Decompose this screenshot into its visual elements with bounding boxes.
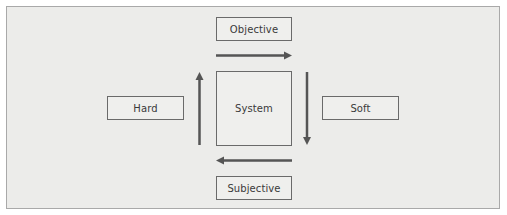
objective-box: Objective (216, 17, 292, 41)
subjective-box: Subjective (216, 176, 292, 200)
objective-label: Objective (230, 24, 278, 35)
soft-box: Soft (322, 96, 399, 120)
system-label: System (235, 103, 273, 114)
soft-label: Soft (350, 103, 370, 114)
hard-label: Hard (133, 103, 157, 114)
hard-box: Hard (107, 96, 184, 120)
system-box: System (216, 71, 292, 146)
subjective-label: Subjective (227, 183, 280, 194)
